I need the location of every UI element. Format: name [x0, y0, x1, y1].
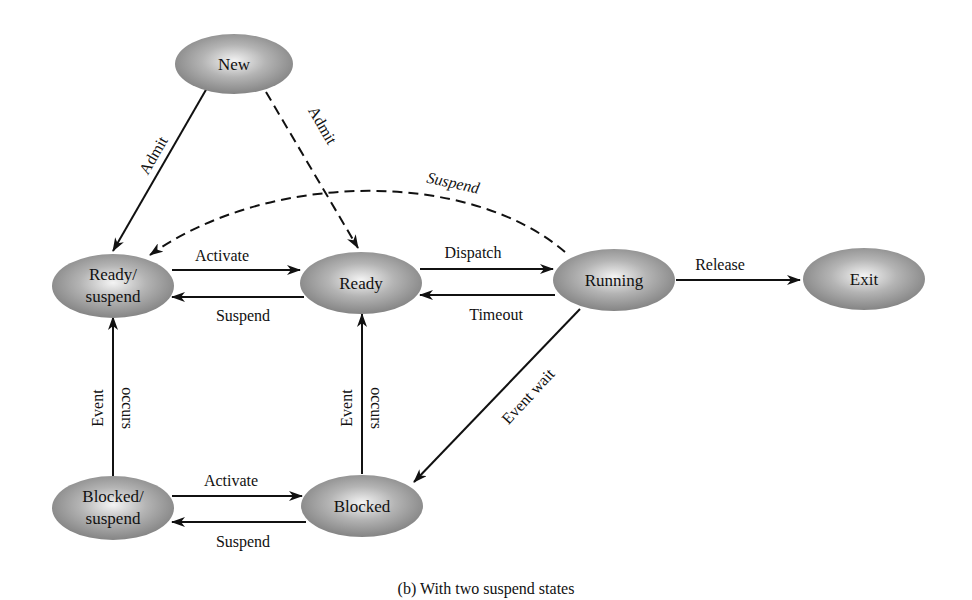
node-ready-suspend: Ready/ suspend: [52, 254, 174, 318]
node-running-label: Running: [585, 271, 644, 290]
label-event-occurs-left-line1: Event: [89, 389, 106, 427]
label-event-occurs-right-line2: occurs: [368, 387, 385, 429]
label-admit-solid: Admit: [136, 133, 171, 177]
node-new: New: [175, 34, 293, 94]
label-event-wait: Event wait: [498, 365, 558, 427]
figure-caption: (b) With two suspend states: [398, 580, 575, 598]
node-ready-suspend-label-line1: Ready/: [89, 265, 137, 284]
edges: [113, 88, 800, 522]
label-suspend-blocked: Suspend: [216, 533, 270, 551]
edge-labels: Admit Admit Suspend Activate Suspend Dis…: [89, 103, 745, 551]
node-blocked-suspend: Blocked/ suspend: [52, 476, 174, 540]
label-admit-dashed: Admit: [305, 103, 340, 147]
node-new-label: New: [218, 55, 251, 74]
label-suspend-ready: Suspend: [216, 307, 270, 325]
label-activate-ready: Activate: [195, 247, 249, 264]
node-running: Running: [553, 249, 675, 311]
label-event-occurs-right-line1: Event: [338, 389, 355, 427]
label-timeout: Timeout: [469, 306, 523, 323]
node-blocked: Blocked: [301, 475, 423, 537]
label-activate-blocked: Activate: [204, 472, 258, 489]
nodes: New Ready/ suspend Ready Running Exit Bl…: [52, 34, 925, 540]
node-blocked-label: Blocked: [334, 497, 391, 516]
label-event-occurs-left-line2: occurs: [119, 387, 136, 429]
node-exit-label: Exit: [850, 270, 879, 289]
label-suspend-running: Suspend: [425, 169, 482, 198]
edge-admit-solid: [113, 88, 207, 251]
node-ready-label: Ready: [339, 274, 383, 293]
node-ready: Ready: [300, 252, 422, 314]
label-release: Release: [695, 256, 745, 273]
node-ready-suspend-label-line2: suspend: [86, 287, 141, 306]
label-dispatch: Dispatch: [445, 244, 502, 262]
node-blocked-suspend-label-line1: Blocked/: [82, 487, 144, 506]
node-exit: Exit: [803, 248, 925, 310]
state-diagram: New Ready/ suspend Ready Running Exit Bl…: [0, 0, 972, 600]
edge-event-wait: [414, 309, 580, 482]
node-blocked-suspend-label-line2: suspend: [86, 509, 141, 528]
